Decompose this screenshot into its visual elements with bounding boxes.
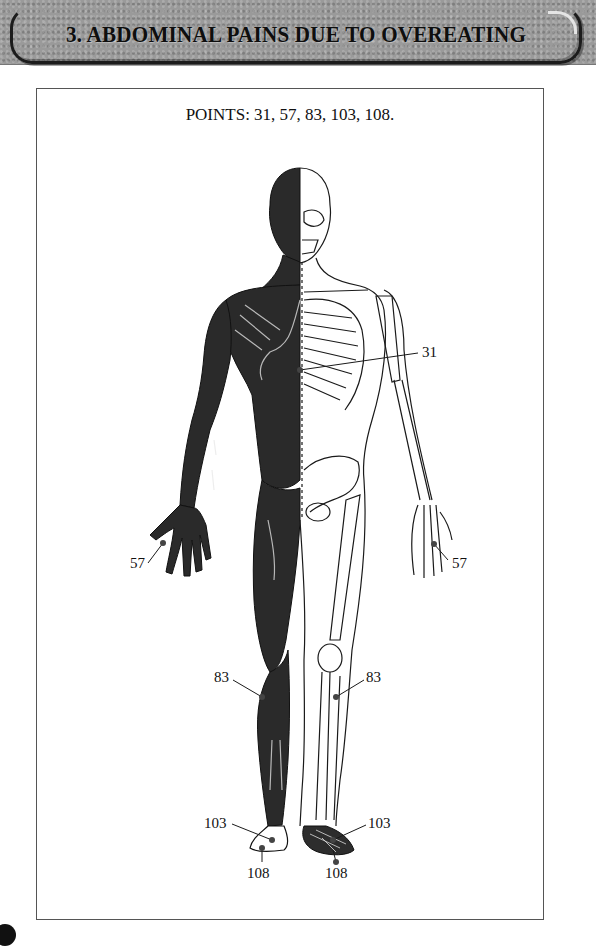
- point-label-57-left: 57: [130, 556, 145, 571]
- page-tab-marker: [0, 924, 16, 946]
- acupoint-marker-103-right: [330, 837, 336, 843]
- point-label-83-left: 83: [214, 670, 229, 685]
- point-label-103-right: 103: [368, 816, 391, 831]
- leader-line-57-left: [148, 543, 163, 563]
- leader-line-83-left: [233, 680, 262, 697]
- acupoint-marker-31-right: [297, 367, 303, 373]
- leader-line-31-right: [300, 353, 418, 370]
- point-label-108-left: 108: [247, 866, 270, 881]
- acupoint-marker-108-left: [259, 845, 265, 851]
- point-label-103-left: 103: [204, 816, 227, 831]
- acupoint-marker-57-right: [431, 541, 437, 547]
- muscle-half: [150, 168, 300, 826]
- acupoint-marker-83-right: [333, 694, 339, 700]
- point-label-31-right: 31: [422, 345, 437, 360]
- right-foot: [303, 826, 354, 855]
- acupoint-marker-57-left: [160, 540, 166, 546]
- point-label-108-right: 108: [325, 866, 348, 881]
- acupoint-marker-103-left: [269, 837, 275, 843]
- point-label-57-right: 57: [452, 556, 467, 571]
- point-label-83-right: 83: [366, 670, 381, 685]
- acupoint-marker-83-left: [259, 694, 265, 700]
- skeleton-half: [300, 168, 452, 826]
